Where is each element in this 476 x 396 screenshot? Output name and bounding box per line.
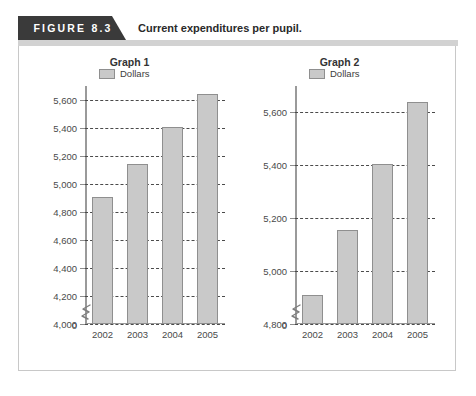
y-axis-tick-label: 5,000 [263,266,287,277]
y-axis-tick [80,128,85,129]
plot-area: 4,8005,0005,2005,4005,600020022003200420… [295,86,435,324]
bar [92,197,114,324]
plot-area: 4,0004,2004,4004,6004,8005,0005,2005,400… [85,86,225,324]
y-axis-tick-label: 5,000 [53,179,77,190]
y-axis-tick [290,218,295,219]
x-axis-tick-label: 2003 [127,329,148,340]
x-axis-tick-label: 2004 [162,329,183,340]
y-axis-tick-label: 5,200 [53,151,77,162]
y-axis [295,86,297,324]
figure-number-tab: FIGURE 8.3 [18,16,126,40]
chart-graph-2: Graph 2 4,8005,0005,2005,4005,6000200220… [237,56,442,366]
y-axis-tick-label: 4,400 [53,263,77,274]
bar [372,164,394,324]
y-axis-tick [290,324,295,325]
chart-legend: Dollars [309,68,360,79]
x-axis-tick-label: 2004 [372,329,393,340]
y-axis-zero-label: 0 [282,320,287,331]
axis-break-icon [289,304,302,320]
y-axis-tick [80,184,85,185]
y-axis-tick [80,268,85,269]
figure-panel: Graph 1 4,0004,2004,4004,6004,8005,0005,… [18,46,456,371]
x-axis-tick-label: 2005 [197,329,218,340]
chart-graph-1: Graph 1 4,0004,2004,4004,6004,8005,0005,… [27,56,232,366]
y-axis-tick [80,240,85,241]
bar [302,295,324,324]
chart-title: Graph 1 [27,56,232,68]
figure-number-label: FIGURE 8.3 [31,23,112,34]
x-axis-tick-label: 2003 [337,329,358,340]
y-axis-tick-label: 5,400 [263,160,287,171]
y-axis-tick-label: 4,600 [53,235,77,246]
chart-title: Graph 2 [237,56,442,68]
y-axis-tick [80,212,85,213]
y-axis-tick [290,271,295,272]
y-axis [85,86,87,324]
legend-swatch-dollars [99,69,115,79]
y-axis-tick-label: 5,600 [53,95,77,106]
y-axis-tick [80,156,85,157]
y-axis-zero-label: 0 [72,320,77,331]
x-axis-tick-label: 2002 [302,329,323,340]
chart-legend: Dollars [99,68,150,79]
y-axis-tick-label: 4,200 [53,291,77,302]
bar [337,230,359,324]
y-axis-tick-label: 5,200 [263,213,287,224]
y-axis-tick [80,100,85,101]
x-axis-tick-label: 2002 [92,329,113,340]
y-axis-tick-label: 5,400 [53,123,77,134]
axis-break-icon [79,304,92,320]
bar [162,127,184,324]
bar [127,164,149,324]
y-axis-tick [290,112,295,113]
gridline [295,324,435,325]
bar [407,102,429,324]
bar [197,94,219,324]
y-axis-tick-label: 5,600 [263,107,287,118]
y-axis-tick-label: 4,800 [53,207,77,218]
figure-header: FIGURE 8.3 Current expenditures per pupi… [18,16,458,40]
gridline [85,324,225,325]
y-axis-tick [290,165,295,166]
y-axis-tick [80,324,85,325]
x-axis-tick-label: 2005 [407,329,428,340]
y-axis-tick [80,296,85,297]
legend-label: Dollars [120,68,150,79]
figure-caption: Current expenditures per pupil. [138,16,302,40]
legend-label: Dollars [330,68,360,79]
legend-swatch-dollars [309,69,325,79]
